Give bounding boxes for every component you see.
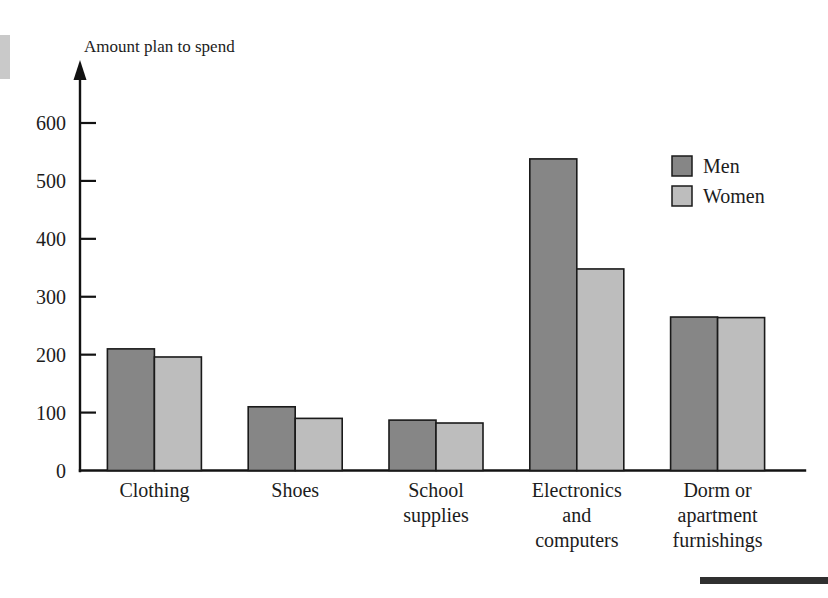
y-tick-label: 500 (36, 170, 66, 192)
bar-men-2 (389, 420, 436, 470)
bottom-rule (700, 577, 828, 584)
y-tick-label: 300 (36, 286, 66, 308)
bar-women-2 (436, 423, 483, 470)
legend-label-women: Women (703, 185, 765, 207)
y-tick-label: 400 (36, 228, 66, 250)
category-label: apartment (678, 504, 758, 527)
bar-women-4 (718, 318, 765, 471)
legend-label-men: Men (703, 155, 740, 177)
bar-chart: Amount plan to spend 0100200300400500600… (0, 0, 828, 598)
category-label: Dorm or (683, 479, 752, 501)
bar-men-4 (671, 317, 718, 470)
y-tick-label: 100 (36, 402, 66, 424)
bar-women-0 (154, 357, 201, 471)
y-tick-label: 600 (36, 112, 66, 134)
y-tick-label: 0 (56, 460, 66, 482)
bar-women-3 (577, 269, 624, 471)
category-label: Clothing (119, 479, 189, 502)
left-edge-artifact (0, 35, 10, 79)
bar-men-1 (248, 407, 295, 471)
category-label: furnishings (673, 529, 763, 552)
category-label: computers (535, 529, 619, 552)
legend-swatch-women (672, 186, 692, 206)
bar-men-3 (530, 159, 577, 471)
bar-men-0 (107, 349, 154, 471)
figure-root: Amount plan to spend 0100200300400500600… (0, 0, 828, 598)
category-label: Shoes (271, 479, 319, 501)
category-label: School (408, 479, 464, 501)
legend-swatch-men (672, 156, 692, 176)
category-label: supplies (403, 504, 469, 527)
category-label: Electronics (532, 479, 622, 501)
category-label: and (562, 504, 591, 526)
bar-women-1 (295, 418, 342, 470)
y-axis-title: Amount plan to spend (84, 37, 235, 56)
y-tick-label: 200 (36, 344, 66, 366)
